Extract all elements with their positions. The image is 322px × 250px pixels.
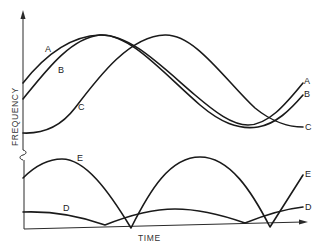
label-c-left: C	[78, 102, 85, 112]
y-axis-arrow-icon	[21, 10, 26, 19]
label-b-left: B	[58, 65, 64, 75]
x-axis	[24, 220, 308, 230]
label-c-right: C	[305, 122, 312, 132]
label-e-left: E	[77, 153, 83, 163]
curve-b	[23, 35, 303, 128]
label-a-right: A	[304, 76, 310, 86]
label-a-left: A	[45, 44, 51, 54]
label-b-right: B	[304, 89, 310, 99]
curve-c	[23, 35, 303, 133]
label-d-left: D	[63, 203, 70, 213]
axis-break-icon	[20, 150, 26, 160]
frequency-time-diagram: A B C A B C E E D D FREQUENCY TIME	[0, 0, 322, 250]
y-axis-label: FREQUENCY	[10, 87, 20, 146]
x-axis-label: TIME	[138, 233, 161, 243]
y-axis	[20, 10, 26, 229]
x-axis-arrow-icon	[299, 220, 308, 225]
label-e-right: E	[305, 169, 311, 179]
curve-a	[23, 35, 303, 125]
label-d-right: D	[305, 202, 312, 212]
